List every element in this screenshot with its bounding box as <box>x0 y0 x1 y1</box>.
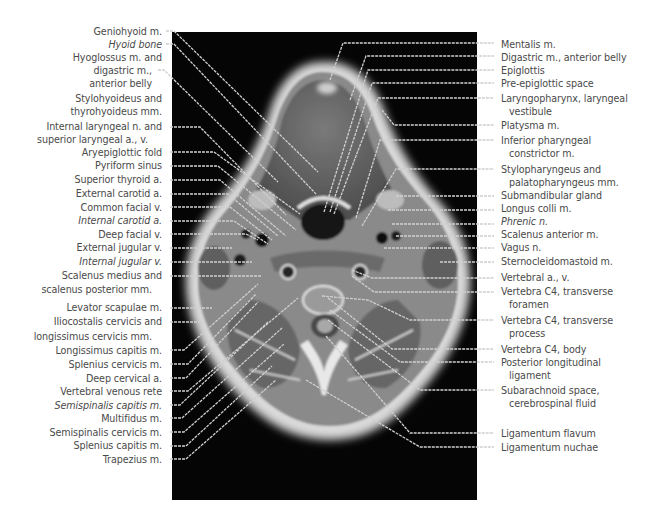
label-stylopharyngeus-palatopharyngeus: Stylopharyngeus and palatopharyngeus mm. <box>501 163 619 189</box>
label-vertebral-venous-rete: Vertebral venous rete <box>60 385 162 398</box>
label-submandibular-gland: Submandibular gland <box>501 189 602 202</box>
label-deep-facial-v: Deep facial v. <box>98 228 162 241</box>
label-scalenus-anterior: Scalenus anterior m. <box>501 228 599 241</box>
label-c4-transverse-process: Vertebra C4, transverse process <box>501 314 613 340</box>
label-superior-thyroid-a: Superior thyroid a. <box>74 173 162 186</box>
label-stylohyoideus-thyrohyoideus: Stylohyoideus and thyrohyoideus mm. <box>70 92 162 118</box>
label-pyriform-sinus: Pyriform sinus <box>95 159 162 172</box>
label-vagus-n: Vagus n. <box>501 241 541 254</box>
label-iliocostalis-longissimus-cervicis: Iliocostalis cervicis and longissimus ce… <box>34 315 162 343</box>
label-laryngopharynx-vestibule: Laryngopharynx, laryngeal vestibule <box>501 92 628 118</box>
label-hyoid-bone: Hyoid bone <box>108 38 162 51</box>
label-common-facial-v: Common facial v. <box>81 201 162 214</box>
label-longus-colli: Longus colli m. <box>501 202 571 215</box>
label-pre-epiglottic-space: Pre-epiglottic space <box>501 77 594 90</box>
label-c4-body: Vertebra C4, body <box>501 343 586 356</box>
label-aryepiglottic-fold: Aryepiglottic fold <box>82 146 162 159</box>
label-internal-laryngeal-n: Internal laryngeal n. and superior laryn… <box>37 120 162 146</box>
label-semispinalis-cervicis: Semispinalis cervicis m. <box>49 426 162 439</box>
label-inferior-pharyngeal-constrictor: Inferior pharyngeal constrictor m. <box>501 134 591 160</box>
label-ligamentum-flavum: Ligamentum flavum <box>501 427 596 440</box>
label-c4-transverse-foramen: Vertebra C4, transverse foramen <box>501 285 613 311</box>
label-splenius-capitis: Splenius capitis m. <box>73 439 162 452</box>
label-vertebral-a-v: Vertebral a., v. <box>501 271 569 284</box>
label-external-carotid-a: External carotid a. <box>76 187 162 200</box>
label-subarachnoid-space: Subarachnoid space, cerebrospinal fluid <box>501 384 599 410</box>
label-multifidus: Multifidus m. <box>101 412 162 425</box>
label-platysma: Platysma m. <box>501 119 559 132</box>
label-trapezius: Trapezius m. <box>103 453 162 466</box>
label-deep-cervical-a: Deep cervical a. <box>86 372 162 385</box>
label-internal-carotid-a: Internal carotid a. <box>78 214 162 227</box>
label-posterior-longitudinal-ligament: Posterior longitudinal ligament <box>501 356 601 382</box>
label-longissimus-capitis: Longissimus capitis m. <box>55 344 162 357</box>
label-digastric-anterior-belly: Digastric m., anterior belly <box>501 51 627 64</box>
label-geniohyoid: Geniohyoid m. <box>94 25 162 38</box>
label-splenius-cervicis: Splenius cervicis m. <box>69 358 162 371</box>
label-ligamentum-nuchae: Ligamentum nuchae <box>501 441 598 454</box>
label-sternocleidomastoid: Sternocleidomastoid m. <box>501 255 613 268</box>
label-external-jugular-v: External jugular v. <box>77 241 162 254</box>
label-internal-jugular-v: Internal jugular v. <box>79 255 162 268</box>
label-hyoglossus-digastric: Hyoglossus m. and digastric m., anterior… <box>73 51 162 90</box>
label-levator-scapulae: Levator scapulae m. <box>66 301 162 314</box>
label-phrenic-n: Phrenic n. <box>501 215 548 228</box>
label-mentalis: Mentalis m. <box>501 38 556 51</box>
label-semispinalis-capitis: Semispinalis capitis m. <box>54 399 162 412</box>
label-epiglottis: Epiglottis <box>501 64 545 77</box>
label-scalenus-medius-posterior: Scalenus medius and scalenus posterior m… <box>41 269 162 296</box>
